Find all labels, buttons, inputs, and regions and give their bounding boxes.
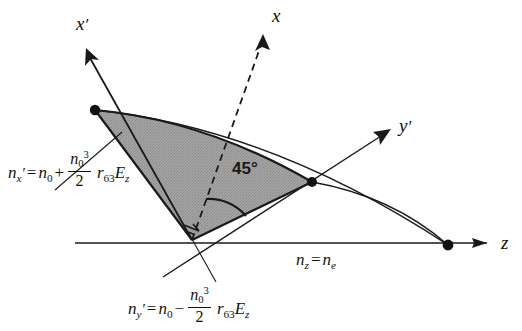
nxp-term1-symbol: n — [38, 163, 47, 182]
axis-label-y-prime: y′ — [399, 116, 411, 135]
nxp-operator: + — [53, 163, 67, 182]
nxp-coeff-sub: 63 — [104, 172, 115, 184]
nxp-frac-numerator: n03 — [68, 150, 91, 170]
nyp-lhs-symbol: n — [128, 299, 137, 318]
nxp-fraction: n03 2 — [68, 150, 91, 189]
nxp-equals: = — [25, 163, 39, 182]
nyp-coeff-symbol: r — [217, 299, 224, 318]
vertex-dot-y-prime — [307, 177, 317, 187]
nxp-term1-sub: 0 — [47, 172, 53, 184]
z-axis-arrowhead — [472, 238, 487, 248]
axis-label-z: z — [501, 233, 508, 252]
nyp-fraction: n03 2 — [188, 286, 211, 325]
vertex-dot-z — [443, 240, 454, 251]
nyp-coeff-sub: 63 — [224, 308, 235, 320]
axis-label-z-letter: z — [501, 232, 508, 253]
y-prime-axis-arrowhead — [373, 129, 391, 145]
nyp-equals: = — [145, 299, 159, 318]
equation-n-x-prime: nx′=n0+ n03 2 r63Ez — [8, 150, 129, 189]
nyp-term1-symbol: n — [158, 299, 167, 318]
axis-label-x-prime-mark: ′ — [84, 15, 88, 34]
leader-line-n-y-prime — [188, 232, 216, 282]
equation-n-y-prime-expression: ny′=n0− n03 2 r63Ez — [128, 286, 249, 325]
angle-label-45: 45° — [232, 160, 258, 177]
nyp-field-symbol: E — [235, 299, 245, 318]
nz-lhs-symbol: n — [296, 250, 305, 269]
vertex-dot-x-prime — [90, 105, 100, 115]
nxp-frac-num-symbol: n — [70, 150, 78, 167]
nz-rhs-symbol: n — [322, 250, 331, 269]
nz-rhs-sub: e — [331, 259, 336, 271]
nyp-field-sub: z — [245, 308, 249, 320]
ellipse-lower-arc — [312, 182, 448, 245]
nxp-frac-denominator: 2 — [68, 173, 91, 189]
axis-label-x-letter: x — [272, 5, 280, 26]
index-ellipsoid-figure: x′ x y′ z 45° nx′=n0+ n03 2 r63Ez ny′=n0… — [0, 0, 522, 331]
nxp-field-symbol: E — [115, 163, 125, 182]
nxp-field-sub: z — [125, 172, 129, 184]
nxp-coeff-symbol: r — [97, 163, 104, 182]
equation-n-y-prime: ny′=n0− n03 2 r63Ez — [128, 286, 249, 325]
nxp-frac-num-sup: 3 — [84, 149, 89, 160]
axis-label-x: x — [272, 6, 280, 25]
equation-n-z: nz=ne — [296, 251, 336, 271]
nxp-lhs-symbol: n — [8, 163, 17, 182]
nyp-frac-numerator: n03 — [188, 286, 211, 306]
axis-label-y-prime-mark: ′ — [407, 117, 411, 136]
x-axis-arrowhead — [255, 34, 270, 51]
nyp-frac-denominator: 2 — [188, 309, 211, 325]
nz-equals: = — [309, 250, 323, 269]
axis-label-x-prime: x′ — [76, 14, 88, 33]
nyp-frac-num-symbol: n — [190, 286, 198, 303]
equation-n-z-expression: nz=ne — [296, 251, 336, 271]
nyp-term1-sub: 0 — [167, 308, 173, 320]
nyp-operator: − — [173, 299, 187, 318]
equation-n-x-prime-expression: nx′=n0+ n03 2 r63Ez — [8, 150, 129, 189]
nyp-frac-num-sup: 3 — [204, 285, 209, 296]
